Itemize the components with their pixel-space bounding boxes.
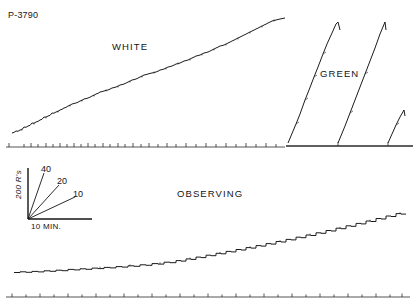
legend-rate-line-40 [28, 173, 44, 219]
legend-x-axis-label: 10 MIN. [31, 222, 61, 231]
figure-canvas [0, 0, 413, 308]
green-response-pips [296, 52, 399, 125]
observing-response-pips [100, 212, 400, 268]
legend-y-axis-label: 200 R's [14, 158, 23, 212]
green-segment-3-reset [404, 110, 405, 116]
observing-condition-label: OBSERVING [177, 188, 243, 199]
record-id-label: P-3790 [8, 10, 38, 20]
upper-panel [6, 18, 413, 147]
green-cumulative-segments [288, 22, 405, 143]
legend-rate-line-10 [28, 197, 75, 219]
green-segment-2 [338, 22, 385, 143]
green-segment-2-reset [385, 22, 386, 30]
green-condition-label: GREEN [320, 68, 359, 79]
lower-event-marks [12, 294, 402, 298]
legend-rate-line-20 [28, 185, 59, 219]
green-segment-1-reset [338, 22, 340, 30]
legend-rate-label-20: 20 [57, 176, 67, 186]
green-segment-3 [388, 110, 404, 143]
legend-rate-label-10: 10 [73, 189, 83, 199]
cumulative-record-figure: P-3790 WHITE GREEN OBSERVING 40 20 10 10… [0, 0, 413, 308]
white-condition-label: WHITE [112, 41, 148, 52]
observing-cumulative-trace [14, 214, 406, 273]
legend-rate-label-40: 40 [41, 164, 51, 174]
white-cumulative-trace [12, 18, 285, 133]
green-segment-1 [288, 22, 338, 143]
white-response-pips [22, 20, 274, 131]
